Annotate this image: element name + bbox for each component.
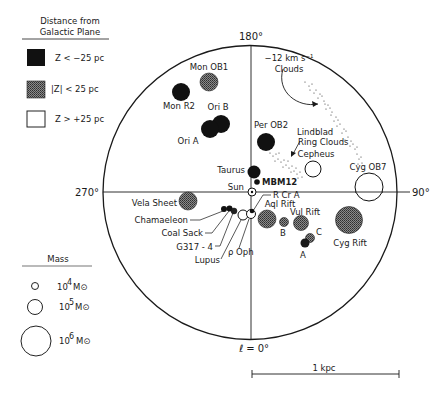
legend-dark-label: Z < −25 pc <box>55 53 104 63</box>
scale-bar-label: 1 kpc <box>312 363 335 373</box>
label-chamaeleon: Chamaeleon <box>135 215 188 225</box>
distance-legend-title-1: Distance from <box>40 16 100 26</box>
mass-1e5-unit: M⊙ <box>75 302 89 312</box>
cloud-a <box>301 239 310 248</box>
cloud-r-cr-a <box>250 209 255 214</box>
mass-1e6-circle-icon <box>21 326 51 356</box>
label-per-ob2: Per OB2 <box>254 120 288 130</box>
cloud-vul-rift <box>294 216 309 231</box>
cloud-g317-4 <box>231 208 237 214</box>
cloud-cyg-rift <box>336 207 363 234</box>
clouds-12-label-2: Clouds <box>275 64 304 74</box>
label-lupus: Lupus <box>195 255 221 265</box>
axis-label-180: 180° <box>239 31 263 42</box>
dark-swatch-icon <box>27 49 45 66</box>
label-ori-b: Ori B <box>207 102 228 112</box>
label-b: B <box>280 228 286 238</box>
axis-label-0: ℓ = 0° <box>239 343 269 354</box>
mass-1e5-exp: 5 <box>69 298 74 307</box>
mass-legend: Mass 10 4 M⊙ 10 5 M⊙ 10 6 M⊙ <box>21 254 92 356</box>
cloud-cyg-ob7 <box>355 173 383 201</box>
hatched-swatch-icon <box>27 81 45 98</box>
mass-1e4-unit: M⊙ <box>73 282 87 292</box>
label-c: C <box>316 227 322 237</box>
lindblad-label-2: Ring Clouds <box>298 137 349 147</box>
label-mon-r2: Mon R2 <box>163 101 195 111</box>
clouds-arrow <box>282 69 318 105</box>
cloud-vela-sheet <box>179 192 197 210</box>
label-coal-sack: Coal Sack <box>161 228 203 238</box>
label-cyg-ob7: Cyg OB7 <box>350 162 387 172</box>
label-rho-oph: ρ Oph <box>228 247 254 257</box>
axis-label-90: 90° <box>412 187 430 198</box>
legend-hatched-label: |Z| < 25 pc <box>51 84 99 94</box>
label-vul-rift: Vul Rift <box>290 207 321 217</box>
open-swatch-icon <box>27 111 45 127</box>
cloud-taurus <box>248 166 261 179</box>
legend-open-label: Z > +25 pc <box>55 114 104 124</box>
label-vela-sheet: Vela Sheet <box>132 198 178 208</box>
axis-label-270: 270° <box>75 187 99 198</box>
label-ori-a: Ori A <box>177 136 198 146</box>
distance-legend: Distance from Galactic Plane Z < −25 pc … <box>22 16 109 127</box>
cloud-b <box>280 218 289 227</box>
label-a: A <box>300 250 306 260</box>
cloud-mon-ob1 <box>200 73 218 91</box>
clouds-12-label: −12 km s⁻¹ <box>265 53 314 63</box>
label-sun: Sun <box>228 182 244 192</box>
label-cepheus: Cepheus <box>298 149 336 159</box>
cloud-mbm12 <box>254 179 260 185</box>
mass-1e4-exp: 4 <box>67 278 72 287</box>
distance-legend-title-2: Galactic Plane <box>40 27 100 37</box>
label-taurus: Taurus <box>216 165 245 175</box>
lindblad-arrowhead-icon <box>291 151 296 157</box>
mass-1e6-exp: 6 <box>69 332 74 341</box>
lindblad-label-1: Lindblad <box>297 127 333 137</box>
label-mbm12: MBM12 <box>262 177 297 187</box>
label-cyg-rift: Cyg Rift <box>333 238 367 248</box>
mass-1e5-circle-icon <box>28 300 43 315</box>
cloud-aql-rift <box>258 210 276 228</box>
mass-1e6-unit: M⊙ <box>76 336 90 346</box>
mass-1e4-circle-icon <box>32 283 39 290</box>
cloud-mon-r2 <box>172 83 190 101</box>
label-mon-ob1: Mon OB1 <box>190 62 229 72</box>
cloud-markers: Mon OB1 Mon R2 Ori B Ori A Per OB2 Tauru… <box>132 62 387 265</box>
label-g317-4: G317 - 4 <box>176 242 213 252</box>
mass-legend-title: Mass <box>47 254 69 264</box>
sun-center-dot <box>251 191 253 193</box>
cloud-ori-a <box>201 120 219 138</box>
clouds-arrowhead-icon <box>312 101 318 107</box>
cloud-per-ob2 <box>257 133 275 151</box>
scale-bar: 1 kpc <box>252 363 399 378</box>
molecular-cloud-map: Distance from Galactic Plane Z < −25 pc … <box>0 0 439 399</box>
cloud-cepheus <box>305 161 321 177</box>
